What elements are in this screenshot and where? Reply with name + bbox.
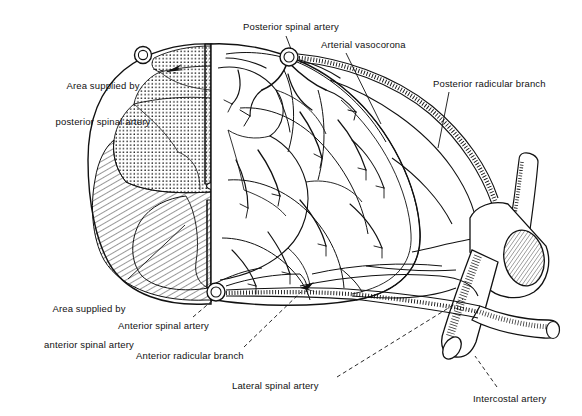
label-line-1: Area supplied by <box>30 303 148 315</box>
label-line-2: anterior spinal artery <box>30 339 148 351</box>
posterior-spinal-artery-vessel <box>280 48 298 66</box>
label-posterior-spinal-artery: Posterior spinal artery <box>243 21 339 33</box>
anatomical-figure: Posterior spinal artery Arterial vasocor… <box>0 0 582 416</box>
label-line-1: Area supplied by <box>41 80 165 92</box>
label-area-supplied-posterior-spinal-artery: Area supplied by posterior spinal artery <box>41 56 165 152</box>
intercostal-artery-trunk <box>439 153 560 363</box>
label-posterior-radicular-branch: Posterior radicular branch <box>433 78 546 90</box>
label-anterior-spinal-artery: Anterior spinal artery <box>118 320 209 332</box>
label-line-2: posterior spinal artery <box>41 116 165 128</box>
label-lateral-spinal-artery: Lateral spinal artery <box>232 380 319 392</box>
label-arterial-vasocorona: Arterial vasocorona <box>321 39 406 51</box>
label-intercostal-artery: Intercostal artery <box>473 393 546 405</box>
anterior-spinal-artery-vessel <box>207 283 225 301</box>
label-anterior-radicular-branch: Anterior radicular branch <box>136 350 244 362</box>
